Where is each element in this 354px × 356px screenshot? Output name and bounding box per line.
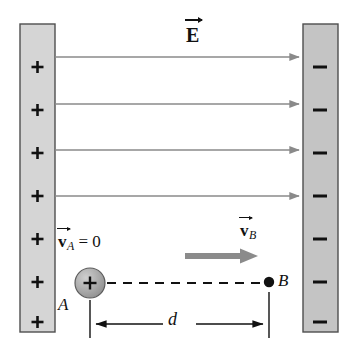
charged-particle-sphere <box>75 268 105 298</box>
field-label-text: E <box>186 24 199 46</box>
distance-dimension <box>90 292 269 338</box>
left-positive-plate <box>20 24 55 332</box>
right-negative-plate <box>303 24 338 332</box>
electric-field-label: E <box>186 25 199 45</box>
velocity-b-label: vB <box>240 222 256 242</box>
right-plate-body <box>303 24 338 332</box>
distance-label: d <box>168 310 177 328</box>
velocity-a-symbol-text: v <box>58 232 67 251</box>
velocity-a-value-text: = 0 <box>78 232 100 251</box>
point-b-label: B <box>278 272 288 289</box>
point-b-dot <box>264 277 274 287</box>
velocity-b-subscript-text: B <box>249 228 256 242</box>
figure-canvas <box>0 0 354 356</box>
velocity-b-symbol-text: v <box>240 221 249 240</box>
velocity-a-label: vA = 0 <box>58 233 101 253</box>
velocity-b-arrow <box>185 249 258 264</box>
electric-field-lines <box>55 57 299 196</box>
point-a-label: A <box>58 296 68 313</box>
parallel-plate-capacitor-figure: E vA = 0 vB A B d <box>0 0 354 356</box>
